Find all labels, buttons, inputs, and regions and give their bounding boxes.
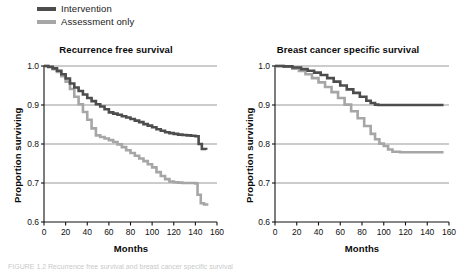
plot-area-right: 0.60.70.80.91.0020406080100120140160 bbox=[232, 0, 464, 272]
svg-text:1.0: 1.0 bbox=[27, 61, 39, 71]
svg-text:40: 40 bbox=[314, 227, 324, 237]
svg-text:0.7: 0.7 bbox=[27, 178, 39, 188]
svg-text:0.9: 0.9 bbox=[258, 100, 270, 110]
gridlines bbox=[275, 66, 449, 183]
svg-text:0.6: 0.6 bbox=[27, 217, 39, 227]
plot-area-left: 0.60.70.80.91.0020406080100120140160 bbox=[0, 0, 232, 272]
svg-text:20: 20 bbox=[61, 227, 71, 237]
svg-text:0.7: 0.7 bbox=[258, 178, 270, 188]
svg-text:80: 80 bbox=[357, 227, 367, 237]
svg-text:100: 100 bbox=[145, 227, 159, 237]
svg-text:100: 100 bbox=[377, 227, 391, 237]
series-line-intervention bbox=[44, 66, 206, 150]
svg-text:0.6: 0.6 bbox=[258, 217, 270, 227]
svg-text:0.8: 0.8 bbox=[27, 139, 39, 149]
figure-caption: FIGURE 1.2 Recurrence free survival and … bbox=[8, 263, 458, 270]
svg-text:0.8: 0.8 bbox=[258, 139, 270, 149]
svg-text:60: 60 bbox=[104, 227, 114, 237]
svg-text:0: 0 bbox=[42, 227, 47, 237]
y-ticks: 0.60.70.80.91.0 bbox=[27, 61, 44, 227]
panel-recurrence-free-survival: Recurrence free survival Proportion surv… bbox=[0, 0, 232, 272]
svg-text:80: 80 bbox=[126, 227, 136, 237]
panel-breast-cancer-specific-survival: Breast cancer specific survival Proporti… bbox=[232, 0, 464, 272]
svg-text:40: 40 bbox=[83, 227, 93, 237]
svg-text:20: 20 bbox=[292, 227, 302, 237]
series-line-assessment-only bbox=[275, 66, 444, 152]
svg-text:160: 160 bbox=[442, 227, 456, 237]
svg-text:140: 140 bbox=[188, 227, 202, 237]
svg-text:120: 120 bbox=[398, 227, 412, 237]
svg-text:0.9: 0.9 bbox=[27, 100, 39, 110]
y-ticks: 0.60.70.80.91.0 bbox=[258, 61, 275, 227]
figure-container: Intervention Assessment only Recurrence … bbox=[0, 0, 464, 272]
svg-text:0: 0 bbox=[273, 227, 278, 237]
x-ticks: 020406080100120140160 bbox=[273, 222, 457, 237]
svg-text:140: 140 bbox=[420, 227, 434, 237]
svg-text:1.0: 1.0 bbox=[258, 61, 270, 71]
svg-text:120: 120 bbox=[167, 227, 181, 237]
svg-text:60: 60 bbox=[336, 227, 346, 237]
svg-text:160: 160 bbox=[210, 227, 224, 237]
x-ticks: 020406080100120140160 bbox=[42, 222, 225, 237]
